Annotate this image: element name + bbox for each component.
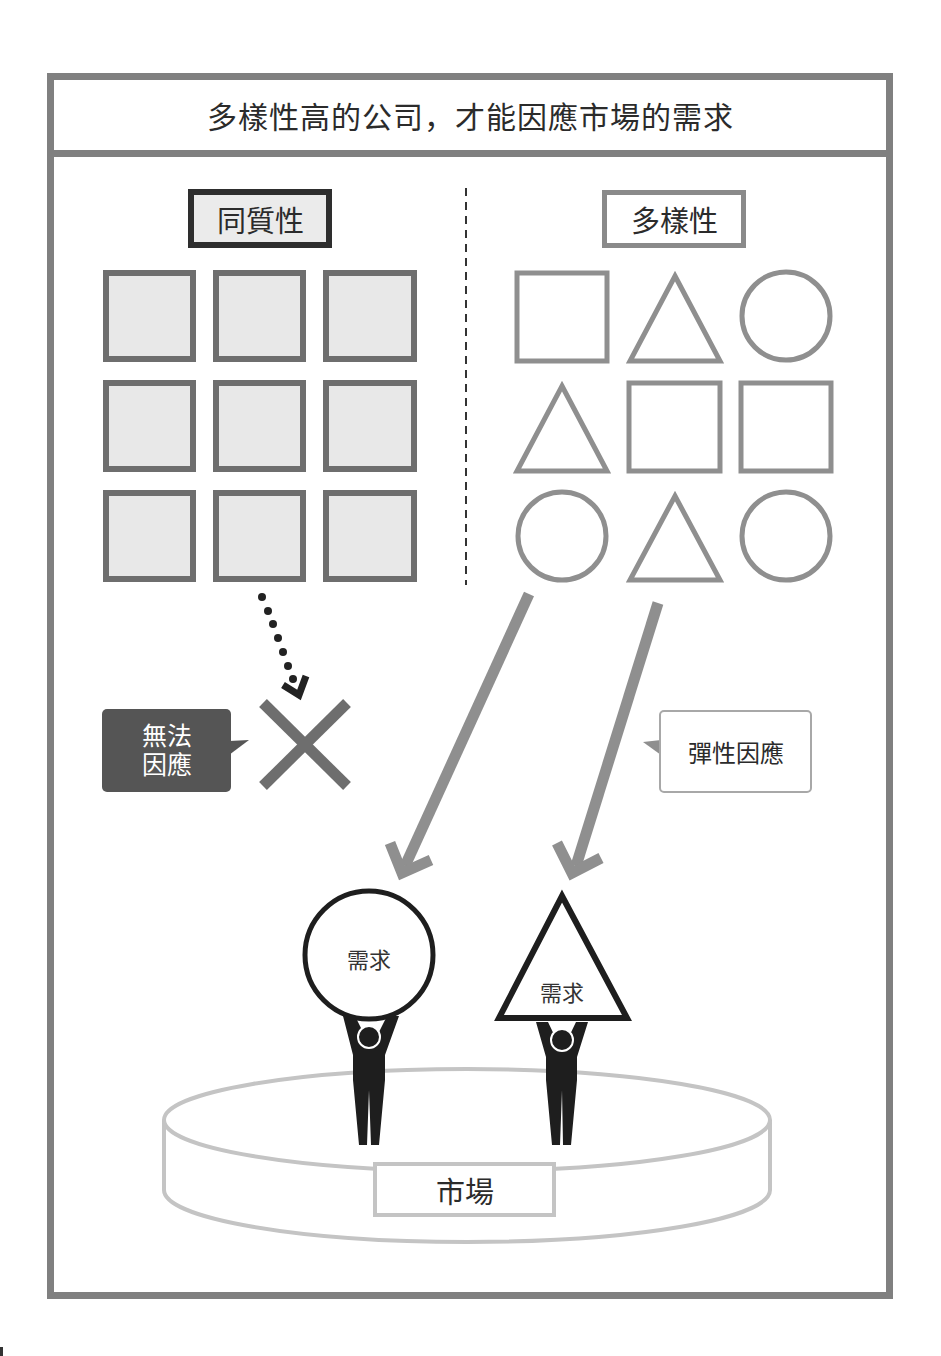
square-shape [326, 383, 414, 469]
square-shape [216, 493, 303, 579]
circle-shape [742, 272, 830, 360]
square-shape [326, 273, 414, 359]
flexible-response-callout: 彈性因應 [659, 710, 812, 793]
cannot-respond-callout: 無法 因應 [102, 709, 231, 792]
arrow-to-triangle-demand [557, 603, 658, 873]
square-shape [741, 383, 831, 471]
circle-shape [518, 492, 606, 580]
square-shape [517, 273, 607, 361]
dotted-arrow [258, 593, 306, 695]
cross-icon [263, 703, 347, 786]
square-shape [629, 383, 720, 471]
diagram-canvas [0, 0, 941, 1356]
corner-mark [0, 1347, 3, 1356]
square-shape [326, 493, 414, 579]
homogeneity-label: 同質性 [188, 189, 332, 248]
callout-line-2: 因應 [142, 751, 192, 780]
callout-line-1: 無法 [142, 722, 192, 751]
arrow-to-circle-demand [390, 594, 529, 873]
square-shape [216, 273, 303, 359]
triangle-shape [630, 276, 720, 361]
callout-pointer [229, 740, 249, 755]
homogeneous-grid [106, 273, 414, 579]
circle-shape [742, 492, 830, 580]
diversity-grid [517, 272, 831, 580]
square-shape [216, 383, 303, 469]
demand-triangle-label: 需求 [540, 975, 584, 1007]
square-shape [106, 383, 193, 469]
square-shape [106, 493, 193, 579]
market-label: 市場 [373, 1162, 556, 1217]
diversity-label: 多樣性 [602, 190, 746, 248]
square-shape [106, 273, 193, 359]
demand-circle-label: 需求 [347, 942, 391, 974]
triangle-shape [517, 386, 607, 471]
triangle-shape [630, 496, 720, 580]
